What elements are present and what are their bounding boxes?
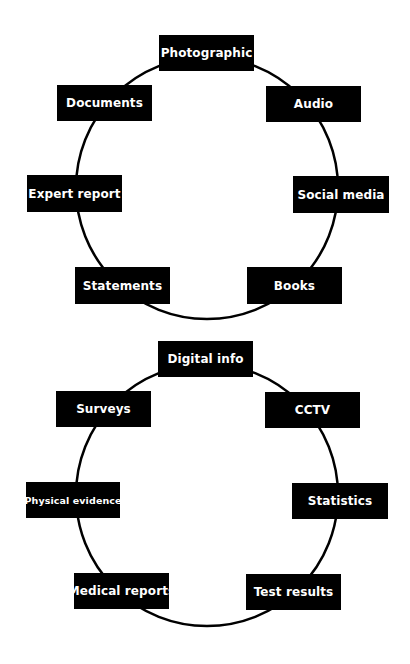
node-label: Audio (294, 97, 333, 111)
node-statistics: Statistics (292, 483, 388, 519)
node-physical-evidence: Physical evidence (26, 482, 120, 518)
node-social-media: Social media (293, 176, 389, 213)
node-label: Test results (254, 585, 334, 599)
node-label: Digital info (167, 352, 243, 366)
node-label: CCTV (295, 403, 331, 417)
node-label: Medical reports (68, 584, 175, 598)
node-label: Physical evidence (24, 495, 121, 506)
node-digital-info: Digital info (158, 341, 253, 377)
node-expert-report: Expert report (27, 175, 122, 212)
node-documents: Documents (57, 85, 152, 121)
node-statements: Statements (75, 267, 170, 304)
node-label: Expert report (28, 187, 120, 201)
node-medical-reports: Medical reports (74, 573, 169, 609)
node-label: Surveys (76, 402, 131, 416)
node-label: Statements (83, 279, 162, 293)
node-photographic: Photographic (159, 35, 254, 71)
node-label: Social media (297, 188, 384, 202)
node-label: Documents (66, 96, 143, 110)
node-surveys: Surveys (56, 391, 151, 427)
node-label: Books (274, 279, 315, 293)
node-cctv: CCTV (265, 392, 360, 428)
node-books: Books (247, 267, 342, 304)
node-label: Photographic (161, 46, 253, 60)
node-audio: Audio (266, 86, 361, 122)
node-label: Statistics (308, 494, 373, 508)
node-test-results: Test results (246, 574, 341, 610)
evidence-types-diagram: Photographic Documents Audio Expert repo… (0, 0, 410, 664)
